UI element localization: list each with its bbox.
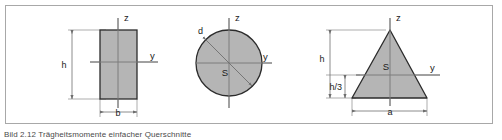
tri-height-label: h [319, 54, 324, 64]
tri-centroid-label: S [383, 61, 389, 72]
tri-z-axis-label: z [396, 12, 401, 23]
figure-container: h b z y [0, 0, 502, 140]
tri-base-label: a [387, 107, 392, 117]
tri-centroid-height-label: h/3 [329, 82, 342, 92]
tri-y-axis-label: y [430, 62, 435, 73]
rect-y-axis-label: y [150, 50, 155, 61]
rect-height-label: h [61, 60, 66, 70]
cross-section-diagram: h b z y [0, 0, 502, 140]
triangle-group: h h/3 a z y S [319, 12, 440, 117]
rect-z-axis-label: z [124, 12, 129, 23]
figure-caption: Bild 2.12 Trägheitsmomente einfacher Que… [4, 130, 474, 140]
circle-centroid-label: S [222, 67, 228, 78]
circle-y-axis-label: y [263, 51, 268, 62]
circle-diameter-label: d [198, 26, 203, 36]
rectangle-group: h b z y [61, 12, 158, 118]
circle-z-axis-label: z [235, 12, 240, 23]
rect-width-label: b [115, 108, 120, 118]
circle-group: d z y S [196, 12, 272, 108]
